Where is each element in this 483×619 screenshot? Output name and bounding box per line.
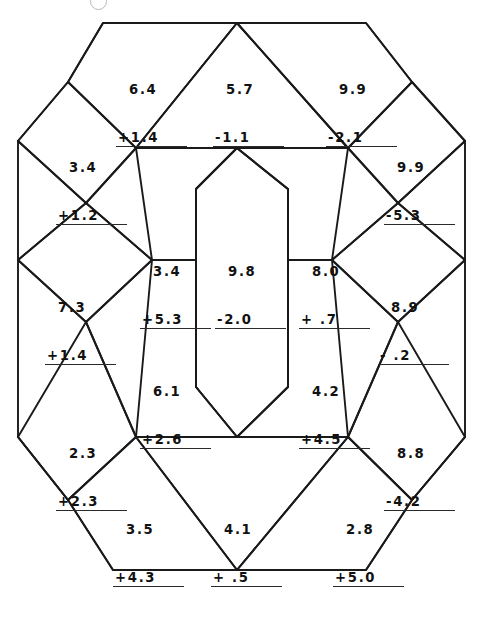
problem-p2-top: 5.7 — [213, 82, 299, 98]
problem-p9-operand: 1.4 — [60, 348, 88, 363]
problem-p5-top: 9.9 — [384, 160, 470, 176]
problem-p17-top: 2.8 — [333, 522, 419, 538]
problem-p4: 3.4 +1.2 — [56, 128, 142, 257]
problem-p6: 3.4 +5.3 — [140, 232, 226, 361]
problem-p2-operand: 1.1 — [222, 130, 250, 145]
problem-p3-top: 9.9 — [326, 82, 412, 98]
problem-p17-op: + — [335, 570, 348, 585]
problem-p17-bottom: +5.0 — [333, 570, 404, 587]
problem-p15-operand: 4.3 — [128, 570, 156, 585]
problem-p2-bottom: -1.1 — [213, 130, 284, 147]
problem-p5-operand: 5.3 — [393, 208, 421, 223]
problem-p8-operand: .7 — [314, 312, 338, 327]
problem-p9-top: 7.3 — [45, 300, 131, 316]
problem-p12-op: + — [301, 432, 314, 447]
problem-p5-bottom: -5.3 — [384, 208, 455, 225]
problem-p9-op: + — [47, 348, 60, 363]
problem-p16: 4.1 + .5 — [211, 490, 297, 619]
problem-p2: 5.7 -1.1 — [213, 50, 299, 179]
problem-p6-bottom: +5.3 — [140, 312, 211, 329]
problem-p13-operand: 2.3 — [71, 494, 99, 509]
problem-p17: 2.8 +5.0 — [333, 490, 419, 619]
problem-p8-bottom: + .7 — [299, 312, 370, 329]
problem-p6-op: + — [142, 312, 155, 327]
problem-p6-operand: 5.3 — [155, 312, 183, 327]
problem-p12: 4.2 +4.5 — [299, 352, 385, 481]
problem-p3-operand: 2.1 — [335, 130, 363, 145]
problem-p9: 7.3 +1.4 — [45, 268, 131, 397]
problem-p9-bottom: +1.4 — [45, 348, 116, 365]
problem-p13-op: + — [58, 494, 71, 509]
problem-p11-top: 6.1 — [140, 384, 226, 400]
problem-p4-op: + — [58, 208, 71, 223]
problem-p15: 3.5 +4.3 — [113, 490, 199, 619]
problem-p4-bottom: +1.2 — [56, 208, 127, 225]
problem-p4-top: 3.4 — [56, 160, 142, 176]
problem-p15-op: + — [115, 570, 128, 585]
problem-p10: 8.9 - .2 — [378, 268, 464, 397]
problem-p8-top: 8.0 — [299, 264, 385, 280]
problem-p16-bottom: + .5 — [211, 570, 282, 587]
problem-p8-op: + — [301, 312, 314, 327]
problem-p17-operand: 5.0 — [348, 570, 376, 585]
problem-p7-bottom: -2.0 — [215, 312, 286, 329]
problem-p14-top: 8.8 — [384, 446, 470, 462]
problem-p10-operand: .2 — [387, 348, 411, 363]
problem-p1-top: 6.4 — [116, 82, 202, 98]
problem-p11-operand: 2.6 — [155, 432, 183, 447]
problem-p4-operand: 1.2 — [71, 208, 99, 223]
problem-p10-top: 8.9 — [378, 300, 464, 316]
problem-p11-op: + — [142, 432, 155, 447]
problem-p5: 9.9 -5.3 — [384, 128, 470, 257]
problem-p6-top: 3.4 — [140, 264, 226, 280]
problem-p7-top: 9.8 — [215, 264, 301, 280]
problem-p11-bottom: +2.6 — [140, 432, 211, 449]
problem-p13-top: 2.3 — [56, 446, 142, 462]
problem-p7: 9.8 -2.0 — [215, 232, 301, 361]
problem-p8: 8.0 + .7 — [299, 232, 385, 361]
problem-p11: 6.1 +2.6 — [140, 352, 226, 481]
problem-p12-bottom: +4.5 — [299, 432, 370, 449]
problem-p16-top: 4.1 — [211, 522, 297, 538]
problem-p12-top: 4.2 — [299, 384, 385, 400]
puzzle-worksheet: 6.4 +1.4 5.7 -1.1 9.9 -2.1 3.4 +1.2 9.9 … — [0, 0, 483, 619]
problem-p12-operand: 4.5 — [314, 432, 342, 447]
problem-p15-bottom: +4.3 — [113, 570, 184, 587]
problem-p10-bottom: - .2 — [378, 348, 449, 365]
problem-p7-operand: 2.0 — [224, 312, 252, 327]
problem-p16-operand: .5 — [226, 570, 250, 585]
problem-p15-top: 3.5 — [113, 522, 199, 538]
problem-p16-op: + — [213, 570, 226, 585]
